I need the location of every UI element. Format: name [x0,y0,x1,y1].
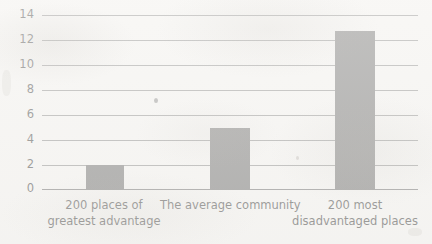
x-tick-label-line: disadvantaged places [286,214,424,230]
x-tick-label-line: greatest advantage [36,214,172,230]
bar-chart: 14 12 10 8 6 4 2 0 200 places of greates… [0,0,432,244]
x-tick-label-the-average-community: The average community [160,198,300,214]
y-tick-label-10: 10 [8,59,34,71]
x-tick-label-line: 200 most [286,198,424,214]
y-tick-label-12: 12 [8,34,34,46]
x-tick-label-200-places-of-greatest-advantage: 200 places of greatest advantage [36,198,172,229]
x-tick-label-line: The average community [160,198,300,214]
x-tick-label-200-most-disadvantaged-places: 200 most disadvantaged places [286,198,424,229]
x-tick-label-line: 200 places of [36,198,172,214]
y-tick-label-14: 14 [8,9,34,21]
y-tick-label-2: 2 [8,159,34,171]
y-tick-label-4: 4 [8,134,34,146]
y-tick-label-6: 6 [8,109,34,121]
y-tick-label-8: 8 [8,84,34,96]
y-axis: 14 12 10 8 6 4 2 0 [0,15,432,190]
y-tick-label-0: 0 [8,183,34,195]
x-axis: 200 places of greatest advantage The ave… [42,198,418,242]
